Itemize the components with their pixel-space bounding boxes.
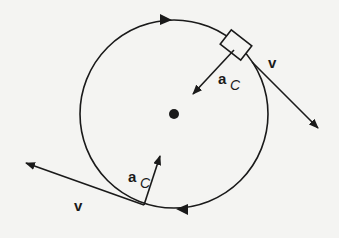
velocity-label-top: v xyxy=(268,54,277,71)
direction-arrow-bottom-icon xyxy=(176,204,188,215)
accel-label-bottom-subscript: C xyxy=(140,175,151,191)
accel-label-bottom: a xyxy=(128,168,137,185)
accel-vector-top xyxy=(193,50,234,94)
direction-arrow-top-icon xyxy=(160,14,172,25)
velocity-label-bottom: v xyxy=(74,197,83,214)
center-point xyxy=(169,109,179,119)
circular-motion-diagram: v a C a C v xyxy=(0,0,339,238)
accel-label-top: a xyxy=(218,70,227,87)
velocity-vector-top xyxy=(252,62,318,128)
accel-label-top-subscript: C xyxy=(230,77,241,93)
velocity-vector-bottom xyxy=(26,163,144,205)
